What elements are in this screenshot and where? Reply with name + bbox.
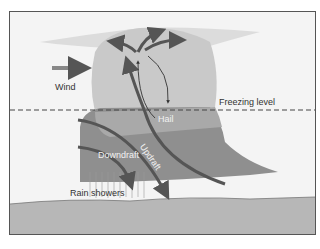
label-freezing-level: Freezing level bbox=[219, 97, 275, 107]
diagram-frame: Wind Freezing level Hail Updraft Downdra… bbox=[9, 11, 316, 235]
label-hail: Hail bbox=[158, 114, 174, 124]
label-wind: Wind bbox=[55, 82, 76, 92]
cloud-upper bbox=[92, 28, 217, 112]
label-downdraft: Downdraft bbox=[98, 150, 139, 160]
ground bbox=[10, 197, 315, 234]
label-rain-showers: Rain showers bbox=[70, 188, 125, 198]
